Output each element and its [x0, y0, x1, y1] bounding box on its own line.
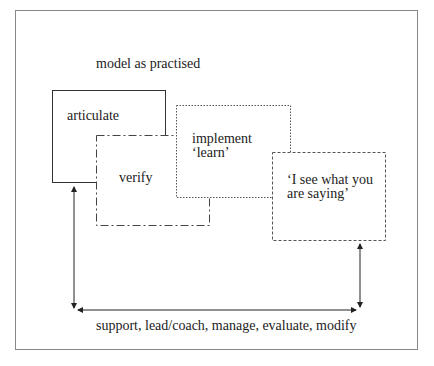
articulate-label: articulate	[67, 108, 119, 123]
bottom-label: support, lead/coach, manage, evaluate, m…	[96, 318, 356, 333]
see-label-line1: ‘I see what you	[287, 172, 373, 187]
verify-label: verify	[119, 170, 152, 185]
implement-label-line1: implement	[192, 131, 252, 146]
diagram-title: model as practised	[96, 56, 200, 71]
implement-label-line2: ‘learn’	[192, 145, 229, 160]
see-label-line2: are saying’	[287, 186, 349, 201]
